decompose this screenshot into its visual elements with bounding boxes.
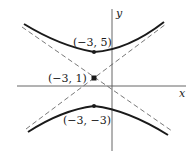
center-label: (−3, 1)	[48, 72, 87, 85]
y-axis-label: y	[115, 7, 123, 20]
lower-vertex-point	[92, 104, 96, 108]
center-point	[92, 76, 97, 81]
x-axis-label: x	[179, 87, 186, 100]
upper-vertex-label: (−3, 5)	[73, 36, 112, 49]
lower-vertex-label: (−3, −3)	[63, 114, 111, 127]
hyperbola-diagram: (−3, 5) (−3, 1) (−3, −3) y x	[0, 0, 195, 155]
upper-vertex-point	[92, 50, 96, 54]
